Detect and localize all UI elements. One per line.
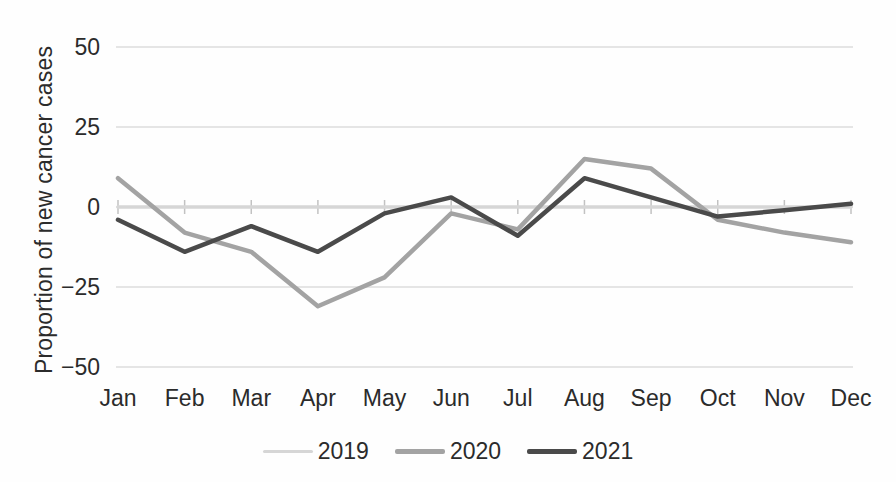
x-tick-label-jan: Jan [83, 385, 153, 411]
y-tick-label: 50 [30, 34, 100, 60]
x-tick-label-jun: Jun [416, 385, 486, 411]
y-tick-label: −25 [30, 274, 100, 300]
x-tick-label-aug: Aug [549, 385, 619, 411]
y-tick-label: 25 [30, 114, 100, 140]
x-tick-label-mar: Mar [216, 385, 286, 411]
y-tick-label: 0 [30, 194, 100, 220]
x-tick-label-oct: Oct [683, 385, 753, 411]
legend-item-2021: 2021 [527, 438, 633, 465]
legend-line-swatch-2020 [395, 449, 445, 454]
x-tick-label-apr: Apr [283, 385, 353, 411]
legend: 201920202021 [0, 438, 896, 465]
legend-line-swatch-2019 [263, 450, 313, 454]
legend-label-2019: 2019 [318, 438, 369, 465]
legend-label-2020: 2020 [450, 438, 501, 465]
series-line-2020 [118, 159, 851, 306]
cancer-cases-line-chart: Proportion of new cancer cases 50250−25−… [0, 0, 896, 482]
y-tick-label: −50 [30, 354, 100, 380]
x-tick-label-feb: Feb [150, 385, 220, 411]
x-tick-label-dec: Dec [816, 385, 886, 411]
legend-label-2021: 2021 [582, 438, 633, 465]
legend-line-swatch-2021 [527, 449, 577, 454]
legend-item-2019: 2019 [263, 438, 369, 465]
x-tick-label-nov: Nov [749, 385, 819, 411]
x-tick-label-sep: Sep [616, 385, 686, 411]
series-line-2021 [118, 178, 851, 252]
x-tick-label-jul: Jul [483, 385, 553, 411]
legend-item-2020: 2020 [395, 438, 501, 465]
x-tick-label-may: May [350, 385, 420, 411]
